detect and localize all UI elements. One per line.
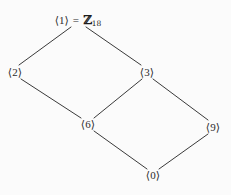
subgroup-lattice-diagram: ⟨1⟩ = ℤ18 ⟨2⟩ ⟨3⟩ ⟨6⟩ ⟨9⟩ ⟨0⟩ [0,0,231,195]
lattice-edge-n3-n6 [94,79,142,118]
edge-group [19,27,208,169]
lattice-edge-n1-n2 [19,27,71,65]
node-label-0: ⟨0⟩ [146,170,160,181]
lattice-edge-n3-n9 [153,79,208,120]
group-subscript: 18 [92,19,102,28]
node-label-2: ⟨2⟩ [8,67,22,78]
equals-sign: = [72,15,80,26]
node-label-6: ⟨6⟩ [81,119,95,130]
lattice-edge-n6-n0 [94,131,147,169]
lattice-edge-n1-n3 [86,27,141,65]
lattice-edge-n2-n6 [21,79,81,118]
node-label-9: ⟨9⟩ [206,122,220,133]
group-symbol-wrap: ℤ18 [83,14,101,26]
node-label-top: ⟨1⟩ = ℤ18 [55,14,102,26]
lattice-edge-n9-n0 [159,134,208,169]
blackboard-z-icon: ℤ [83,13,92,27]
lattice-edges-svg [0,0,231,195]
generator-one-label: ⟨1⟩ [55,15,69,26]
node-label-3: ⟨3⟩ [140,67,154,78]
